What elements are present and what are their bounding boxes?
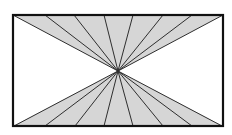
center-point [117, 70, 120, 73]
hourglass-diagram [0, 0, 232, 135]
